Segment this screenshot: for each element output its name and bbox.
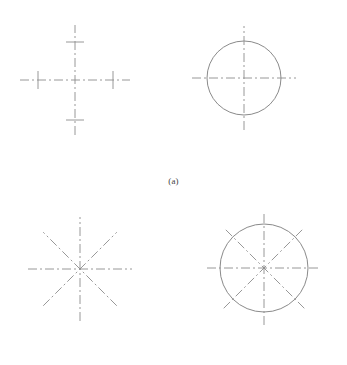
circle-with-cross-centerlines <box>192 26 296 130</box>
radial-centerlines-eight-spokes <box>28 217 132 321</box>
panel-b: (b) <box>0 190 347 365</box>
panel-a-drawing <box>0 0 347 190</box>
panel-a: (a) <box>0 0 347 190</box>
panel-b-drawing <box>0 190 347 365</box>
figure-root: (a) (b) <box>0 0 347 365</box>
cross-centerline-with-ticks <box>20 25 130 135</box>
panel-b-svg <box>0 190 347 365</box>
panel-a-svg <box>0 0 347 190</box>
panel-a-caption: (a) <box>0 176 347 186</box>
circle-with-radial-centerlines <box>207 211 321 325</box>
